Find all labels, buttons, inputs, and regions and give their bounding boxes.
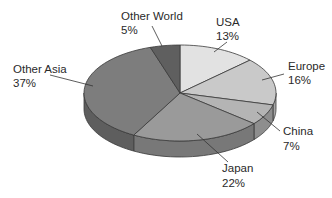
label-japan-name: Japan bbox=[222, 162, 253, 174]
label-other-world-pct: 5% bbox=[121, 24, 138, 36]
leader-line-other-world bbox=[152, 26, 162, 46]
label-europe: Europe 16% bbox=[288, 60, 325, 86]
label-other-asia: Other Asia 37% bbox=[13, 63, 67, 89]
label-usa-pct: 13% bbox=[216, 30, 239, 42]
label-china-pct: 7% bbox=[283, 140, 300, 152]
label-other-asia-pct: 37% bbox=[13, 77, 36, 89]
label-other-world: Other World 5% bbox=[121, 10, 183, 36]
label-usa-name: USA bbox=[216, 16, 240, 28]
label-china: China 7% bbox=[283, 125, 314, 152]
leader-line-other-asia bbox=[50, 75, 93, 86]
label-europe-name: Europe bbox=[288, 60, 325, 72]
label-japan-pct: 22% bbox=[222, 177, 245, 189]
label-usa: USA 13% bbox=[216, 16, 240, 42]
label-japan: Japan 22% bbox=[222, 162, 253, 189]
pie-top-slices bbox=[84, 45, 276, 141]
pie-chart: USA 13% Europe 16% China 7% Japan 22% Ot… bbox=[0, 0, 332, 198]
label-other-world-name: Other World bbox=[121, 10, 183, 22]
label-europe-pct: 16% bbox=[288, 74, 311, 86]
label-other-asia-name: Other Asia bbox=[13, 63, 67, 75]
label-china-name: China bbox=[283, 125, 314, 137]
